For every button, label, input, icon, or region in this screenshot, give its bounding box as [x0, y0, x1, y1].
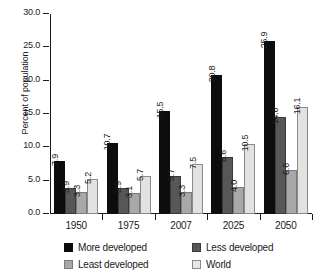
bar-group: 25.914.66.616.1 [264, 14, 308, 214]
legend-item[interactable]: World [192, 259, 231, 270]
bar-value-label: 10.7 [102, 133, 112, 150]
legend-swatch-icon [192, 260, 201, 269]
bar[interactable]: 6.6 [286, 170, 297, 214]
bar-group: 7.93.93.35.2 [54, 14, 98, 214]
bar-value-label: 4.0 [229, 180, 239, 192]
legend-row: More developedLess developed [64, 239, 314, 256]
y-axis-tick-label: 0.0 [28, 207, 40, 217]
legend-swatch-icon [64, 260, 73, 269]
bar[interactable]: 3.3 [181, 192, 192, 214]
legend-label: World [206, 259, 231, 270]
y-axis-tick-label: 25.0 [23, 40, 40, 50]
bar-value-label: 5.2 [83, 172, 93, 184]
legend-swatch-icon [192, 243, 201, 252]
bar-value-label: 3.1 [124, 186, 134, 198]
bar-group: 10.73.93.15.7 [107, 14, 151, 214]
y-axis-tick: 10.0 [43, 146, 49, 147]
bar-group: 20.88.64.010.5 [211, 14, 255, 214]
y-axis-tick-label: 10.0 [23, 140, 40, 150]
bar-value-label: 8.6 [218, 150, 228, 162]
legend-item[interactable]: Least developed [64, 259, 192, 270]
bar[interactable]: 10.5 [244, 144, 255, 214]
bar[interactable]: 5.2 [87, 179, 98, 214]
bar[interactable]: 4.0 [233, 187, 244, 214]
x-axis-category-label: 2007 [155, 220, 207, 231]
x-axis-tick [312, 214, 313, 220]
bar-value-label: 5.7 [135, 169, 145, 181]
y-axis-tick-label: 15.0 [23, 107, 40, 117]
bar-value-label: 3.9 [61, 181, 71, 193]
bar-group: 15.55.73.37.5 [159, 14, 203, 214]
bar-value-label: 5.7 [166, 169, 176, 181]
bar-value-label: 6.6 [281, 163, 291, 175]
bar[interactable]: 10.7 [107, 143, 118, 214]
bar-value-label: 10.5 [240, 135, 250, 152]
bar-value-label: 16.1 [292, 97, 302, 114]
y-axis-tick: 5.0 [43, 180, 49, 181]
y-axis-tick-label: 20.0 [23, 74, 40, 84]
bar[interactable]: 3.1 [129, 193, 140, 214]
x-axis-category-label: 2025 [207, 220, 259, 231]
bar[interactable]: 25.9 [264, 41, 275, 214]
legend-row: Least developedWorld [64, 256, 314, 273]
legend-label: Least developed [78, 259, 148, 270]
y-axis-tick: 0.0 [43, 213, 49, 214]
bar-value-label: 20.8 [207, 66, 217, 83]
bar[interactable]: 7.5 [192, 164, 203, 214]
legend-label: More developed [78, 242, 147, 253]
legend-label: Less developed [206, 242, 273, 253]
bar-value-label: 7.9 [50, 154, 60, 166]
bar-chart: Percent of population 0.05.010.015.020.0… [0, 0, 322, 276]
legend-item[interactable]: More developed [64, 242, 192, 253]
bar-value-label: 3.9 [113, 181, 123, 193]
bar-value-label: 14.6 [270, 107, 280, 124]
bar[interactable]: 15.5 [159, 111, 170, 214]
y-axis-tick: 30.0 [43, 13, 49, 14]
chart-legend: More developedLess developedLeast develo… [64, 239, 314, 273]
y-axis-tick: 15.0 [43, 113, 49, 114]
bar-value-label: 7.5 [188, 157, 198, 169]
bar[interactable]: 20.8 [211, 75, 222, 214]
x-axis-category-label: 2050 [260, 220, 312, 231]
bar-value-label: 25.9 [259, 32, 269, 49]
bar-value-label: 3.3 [177, 185, 187, 197]
bar[interactable]: 3.3 [76, 192, 87, 214]
bar-value-label: 3.3 [72, 185, 82, 197]
y-axis-tick-label: 30.0 [23, 7, 40, 17]
y-axis-line [50, 14, 51, 214]
bar[interactable]: 5.7 [140, 176, 151, 214]
y-axis-tick: 25.0 [43, 46, 49, 47]
plot-area: 0.05.010.015.020.025.030.0 7.93.93.35.21… [50, 14, 312, 214]
y-axis-tick-label: 5.0 [28, 174, 40, 184]
x-axis-category-label: 1950 [50, 220, 102, 231]
bar-value-label: 15.5 [155, 101, 165, 118]
legend-item[interactable]: Less developed [192, 242, 273, 253]
y-axis-tick: 20.0 [43, 80, 49, 81]
legend-swatch-icon [64, 243, 73, 252]
bar[interactable]: 16.1 [297, 107, 308, 214]
x-axis-category-label: 1975 [102, 220, 154, 231]
